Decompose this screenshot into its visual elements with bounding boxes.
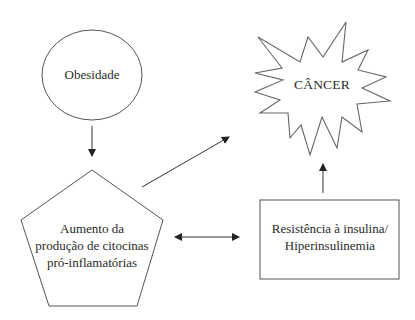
citocinas-label-line-3: pró-inflamatórias xyxy=(12,254,172,271)
diagram-canvas xyxy=(0,0,415,320)
cancer-label: CÂNCER xyxy=(282,76,362,93)
insulina-label-line-2: Hiperinsulinemia xyxy=(262,237,398,254)
arrow-citocinas-to-cancer xyxy=(142,137,229,187)
insulina-label: Resistência à insulina/ Hiperinsulinemia xyxy=(262,220,398,254)
citocinas-label-line-1: Aumento da xyxy=(12,220,172,237)
insulina-label-line-1: Resistência à insulina/ xyxy=(262,220,398,237)
obesidade-label: Obesidade xyxy=(42,66,142,83)
citocinas-label-line-2: produção de citocinas xyxy=(12,237,172,254)
citocinas-label: Aumento da produção de citocinas pró-inf… xyxy=(12,220,172,271)
